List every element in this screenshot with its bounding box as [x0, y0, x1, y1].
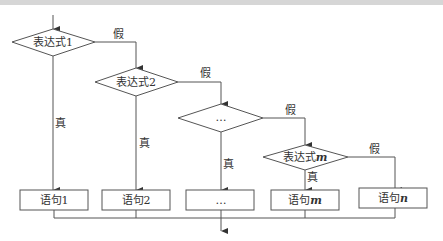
statement-1: 语句1 — [20, 190, 88, 210]
true-label-2: 真 — [139, 136, 150, 150]
false-label-2: 假 — [200, 66, 211, 80]
svg-text:…: … — [216, 194, 227, 207]
statement-n: 语句n — [359, 188, 427, 208]
svg-text:表达式1: 表达式1 — [33, 35, 73, 49]
svg-text:表达式2: 表达式2 — [116, 75, 156, 89]
false-edge-2 — [178, 82, 221, 104]
decision-1: 表达式1 — [12, 29, 95, 56]
svg-text:语句2: 语句2 — [122, 194, 151, 207]
decision-m: 表达式m — [263, 145, 348, 170]
statement-ellipsis: … — [186, 190, 254, 210]
statement-m: 语句m — [271, 190, 339, 210]
svg-text:语句m: 语句m — [288, 194, 322, 207]
statement-2: 语句2 — [102, 190, 170, 210]
false-edge-3 — [263, 118, 305, 145]
flowchart: 表达式1 假 真 表达式2 假 真 … 假 真 表达式m 假 真 语句1 语句2… — [0, 0, 443, 241]
false-edge-m — [348, 157, 395, 190]
false-label-1: 假 — [113, 27, 124, 41]
svg-text:…: … — [216, 111, 227, 124]
false-edge-1 — [95, 42, 136, 68]
false-label-m: 假 — [369, 142, 380, 156]
svg-text:语句n: 语句n — [378, 192, 408, 205]
decision-2: 表达式2 — [95, 68, 178, 96]
false-label-3: 假 — [285, 103, 296, 117]
true-label-1: 真 — [55, 116, 66, 130]
true-label-3: 真 — [223, 157, 234, 171]
svg-text:语句1: 语句1 — [40, 194, 69, 207]
decision-ellipsis: … — [178, 104, 263, 132]
svg-text:表达式m: 表达式m — [283, 150, 328, 164]
true-label-m: 真 — [307, 170, 318, 184]
